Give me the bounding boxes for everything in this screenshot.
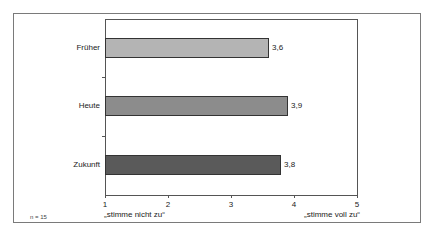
bar-zukunft xyxy=(105,155,281,175)
value-label-frueher: 3,6 xyxy=(272,43,283,53)
x-tick-label-5: 5 xyxy=(347,200,367,210)
x-axis-tick xyxy=(357,195,358,198)
sample-size-note: n = 15 xyxy=(30,213,47,221)
y-axis-tick xyxy=(102,77,105,78)
x-axis-tick xyxy=(231,195,232,198)
x-tick-label-3: 3 xyxy=(221,200,241,210)
bar-frueher xyxy=(105,38,269,58)
scale-anchor-low: „stimme nicht zu“ xyxy=(104,210,165,220)
value-label-zukunft: 3,8 xyxy=(284,160,295,170)
x-axis-tick xyxy=(294,195,295,198)
x-tick-label-2: 2 xyxy=(158,200,178,210)
scale-anchor-high: „stimme voll zu“ xyxy=(304,210,360,220)
x-tick-label-4: 4 xyxy=(284,200,304,210)
category-label-frueher: Früher xyxy=(20,43,100,53)
x-axis-tick xyxy=(105,195,106,198)
category-label-heute: Heute xyxy=(20,101,100,111)
y-axis-tick xyxy=(102,136,105,137)
category-label-zukunft: Zukunft xyxy=(20,160,100,170)
bar-heute xyxy=(105,96,288,116)
x-tick-label-1: 1 xyxy=(95,200,115,210)
x-axis-tick xyxy=(168,195,169,198)
value-label-heute: 3,9 xyxy=(291,101,302,111)
